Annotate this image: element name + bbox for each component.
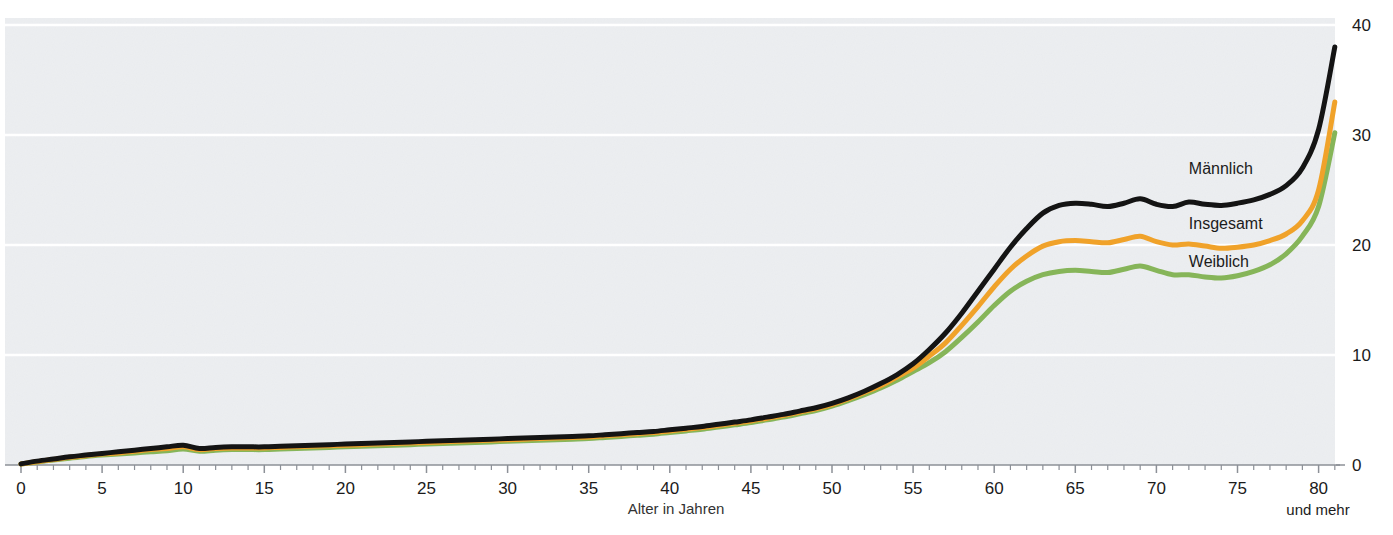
x-tick-label: 65 [1066,479,1085,498]
y-tick-label: 10 [1352,346,1371,365]
x-tick-label: 70 [1147,479,1166,498]
x-tick-label: 30 [498,479,517,498]
x-tick-label: 80 [1309,479,1328,498]
x-tick-label: 45 [741,479,760,498]
x-axis-end-note: und mehr [1286,501,1349,518]
x-tick-label: 55 [904,479,923,498]
x-tick-label: 40 [660,479,679,498]
x-tick-label: 15 [255,479,274,498]
plot-background [5,18,1335,465]
x-axis-title: Alter in Jahren [628,500,725,517]
x-tick-label: 0 [16,479,25,498]
line-chart-canvas: MännlichInsgesamtWeiblich 010203040 0510… [0,0,1393,535]
x-tick-label: 10 [174,479,193,498]
chart-title-clipped [150,0,850,3]
series-label-weiblich: Weiblich [1189,253,1249,270]
x-tick-label: 20 [336,479,355,498]
y-tick-label: 0 [1352,456,1361,475]
y-tick-label: 30 [1352,126,1371,145]
x-tick-label: 5 [97,479,106,498]
x-tick-label: 75 [1228,479,1247,498]
x-tick-label: 50 [823,479,842,498]
y-tick-label: 20 [1352,236,1371,255]
chart-figure: MännlichInsgesamtWeiblich 010203040 0510… [0,0,1393,535]
x-tick-label: 60 [985,479,1004,498]
y-tick-label: 40 [1352,16,1371,35]
x-tick-label: 35 [579,479,598,498]
x-axis-tick-labels: 05101520253035404550556065707580 [16,479,1328,498]
series-label-insgesamt: Insgesamt [1189,215,1263,232]
x-tick-label: 25 [417,479,436,498]
y-axis-tick-labels: 010203040 [1336,16,1371,475]
series-label-männlich: Männlich [1189,160,1253,177]
